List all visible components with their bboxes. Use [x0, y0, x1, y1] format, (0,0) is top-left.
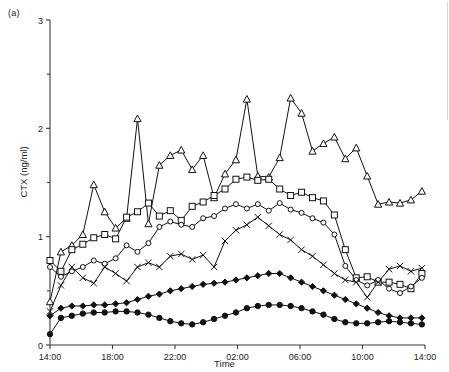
x-tick-label: 22:00 [164, 352, 187, 362]
marker-circle-filled [288, 303, 293, 308]
marker-square [342, 247, 348, 253]
marker-diamond [408, 315, 414, 321]
marker-diamond [102, 302, 108, 308]
marker-cross [276, 231, 282, 237]
marker-square [244, 174, 250, 180]
marker-square [386, 279, 392, 285]
marker-circle-filled [102, 310, 107, 315]
marker-triangle [298, 110, 305, 117]
adjacent-panel-edge [447, 2, 448, 120]
marker-square [135, 209, 141, 215]
marker-triangle [145, 220, 152, 227]
marker-diamond [266, 270, 272, 276]
marker-circle-filled [364, 321, 369, 326]
marker-circle-filled [244, 305, 249, 310]
marker-cross [320, 262, 326, 268]
marker-circle-open [201, 216, 206, 221]
marker-diamond [211, 280, 217, 286]
marker-square [69, 247, 75, 253]
x-tick-label: 14:00 [39, 352, 62, 362]
marker-square [189, 203, 195, 209]
marker-triangle [46, 298, 53, 305]
marker-circle-open [299, 210, 304, 215]
series-line-subject-1 [50, 98, 422, 302]
marker-circle-open [146, 241, 151, 246]
marker-circle-filled [255, 303, 260, 308]
marker-cross [80, 275, 86, 281]
marker-circle-filled [310, 309, 315, 314]
marker-circle-open [266, 208, 271, 213]
marker-square [91, 235, 97, 241]
marker-circle-filled [277, 302, 282, 307]
marker-square [211, 193, 217, 199]
marker-diamond [331, 292, 337, 298]
marker-circle-filled [397, 320, 402, 325]
marker-triangle [353, 144, 360, 151]
marker-cross [331, 270, 337, 276]
marker-cross [397, 263, 403, 269]
marker-circle-open [343, 263, 348, 268]
marker-triangle [79, 231, 86, 238]
marker-diamond [178, 286, 184, 292]
marker-square [113, 236, 119, 242]
series-markers-subject-1 [46, 94, 425, 304]
marker-circle-filled [113, 309, 118, 314]
marker-cross [112, 270, 118, 276]
marker-cross [58, 282, 64, 288]
marker-circle-filled [168, 318, 173, 323]
marker-circle-filled [266, 302, 271, 307]
marker-diamond [298, 279, 304, 285]
x-tick-label: 18:00 [101, 352, 124, 362]
marker-triangle [134, 115, 141, 122]
x-tick-label: 14:00 [414, 352, 437, 362]
marker-square [277, 186, 283, 192]
marker-circle-filled [157, 315, 162, 320]
marker-square [364, 274, 370, 280]
marker-cross [145, 259, 151, 265]
marker-cross [244, 222, 250, 228]
marker-circle-filled [58, 315, 63, 320]
marker-circle-filled [321, 312, 326, 317]
marker-triangle [309, 147, 316, 154]
marker-square [200, 199, 206, 205]
marker-circle-open [398, 291, 403, 296]
marker-circle-open [408, 284, 413, 289]
marker-circle-open [387, 286, 392, 291]
marker-diamond [375, 309, 381, 315]
marker-triangle [178, 146, 185, 153]
marker-cross [211, 264, 217, 270]
marker-triangle [331, 133, 338, 140]
marker-square [299, 189, 305, 195]
marker-diamond [244, 275, 250, 281]
marker-circle-filled [222, 313, 227, 318]
marker-circle-open [321, 220, 326, 225]
marker-diamond [309, 283, 315, 289]
marker-circle-open [233, 202, 238, 207]
figure-panel: (a) CTX (ng/ml) Time 012314:0018:0022:00… [0, 0, 449, 372]
marker-triangle [418, 188, 425, 195]
marker-triangle [57, 248, 64, 255]
marker-square [124, 214, 130, 220]
marker-triangle [200, 152, 207, 159]
marker-cross [364, 294, 370, 300]
marker-circle-open [223, 206, 228, 211]
marker-circle-filled [343, 320, 348, 325]
marker-diamond [222, 279, 228, 285]
marker-circle-open [310, 216, 315, 221]
marker-cross [222, 238, 228, 244]
marker-circle-filled [80, 311, 85, 316]
marker-cross [386, 266, 392, 272]
x-tick-label: 06:00 [289, 352, 312, 362]
marker-diamond [69, 303, 75, 309]
marker-diamond [419, 315, 425, 321]
marker-triangle [287, 94, 294, 101]
marker-square [397, 281, 403, 287]
marker-cross [408, 268, 414, 274]
marker-circle-open [91, 258, 96, 263]
marker-cross [287, 237, 293, 243]
marker-cross [123, 278, 129, 284]
marker-diamond [189, 283, 195, 289]
marker-circle-filled [233, 310, 238, 315]
marker-cross [266, 223, 272, 229]
marker-square [156, 213, 162, 219]
